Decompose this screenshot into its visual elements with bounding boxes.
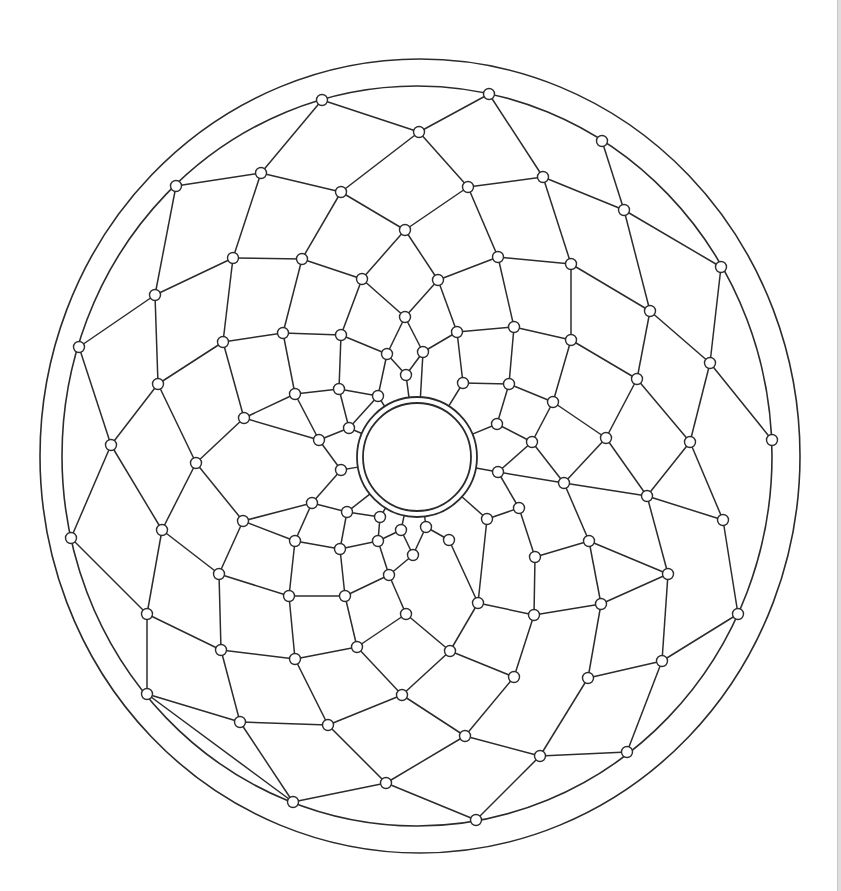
mesh-node	[458, 378, 469, 389]
mesh-node	[657, 656, 668, 667]
mesh-node	[622, 747, 633, 758]
mesh-edge	[155, 295, 158, 384]
mesh-node	[418, 347, 429, 358]
mesh-edge	[476, 756, 540, 820]
mesh-edge	[196, 418, 244, 463]
mesh-node	[153, 379, 164, 390]
mesh-edge	[162, 463, 196, 530]
mesh-edge	[283, 333, 295, 394]
mesh-edge	[322, 100, 419, 132]
mesh-edge	[465, 677, 514, 736]
mesh-edge	[223, 342, 244, 418]
mesh-edge	[710, 267, 721, 363]
mesh-edge	[405, 187, 468, 230]
mesh-node	[566, 259, 577, 270]
mesh-edge	[406, 614, 450, 651]
mesh-edge	[606, 438, 647, 496]
mesh-node	[452, 327, 463, 338]
mesh-edge	[362, 279, 405, 317]
mesh-edge	[295, 503, 312, 541]
mesh-edge	[328, 695, 402, 725]
mesh-node	[297, 254, 308, 265]
mesh-edge	[357, 614, 406, 647]
mesh-node	[529, 610, 540, 621]
mesh-node	[632, 374, 643, 385]
mesh-edge	[219, 521, 243, 574]
mesh-node	[150, 290, 161, 301]
mesh-edge	[295, 394, 319, 440]
mesh-edge	[478, 603, 534, 615]
mesh-node	[357, 274, 368, 285]
mesh-edge	[340, 549, 345, 596]
mesh-edge	[312, 470, 341, 503]
mesh-node	[288, 797, 299, 808]
mesh-node	[767, 435, 778, 446]
mesh-edge	[147, 694, 293, 802]
mesh-edge	[478, 519, 487, 603]
mesh-node	[336, 187, 347, 198]
mesh-node	[214, 569, 225, 580]
mesh-node	[284, 591, 295, 602]
mesh-edge	[457, 327, 514, 332]
mesh-edge	[463, 383, 509, 384]
mesh-node	[408, 550, 419, 561]
center-rings	[357, 397, 477, 517]
mesh-node	[290, 536, 301, 547]
mesh-edge	[647, 496, 723, 520]
mesh-node	[504, 379, 515, 390]
mesh-edge	[386, 736, 465, 783]
mesh-edge	[345, 596, 357, 647]
mesh-edge	[468, 187, 498, 257]
mesh-edge	[571, 264, 650, 311]
mesh-edge	[71, 445, 111, 538]
mesh-node	[375, 512, 386, 523]
scrollbar-edge[interactable]	[837, 0, 841, 891]
mesh-edge	[261, 100, 322, 173]
mesh-edge	[147, 614, 221, 650]
mesh-edge	[243, 503, 312, 521]
mesh-node	[290, 654, 301, 665]
mesh-edge	[553, 402, 606, 438]
mesh-edge	[723, 520, 738, 614]
mesh-edge	[386, 783, 476, 820]
mesh-edge	[221, 650, 295, 659]
mesh-node	[384, 570, 395, 581]
mesh-edge	[509, 327, 514, 384]
mesh-edge	[662, 574, 668, 661]
mesh-edge	[71, 538, 147, 614]
mesh-node	[538, 172, 549, 183]
mesh-node	[493, 467, 504, 478]
mesh-node	[716, 262, 727, 273]
mesh-node	[482, 514, 493, 525]
mesh-edge	[606, 379, 637, 438]
mesh-edge	[240, 722, 293, 802]
mesh-edge	[289, 596, 295, 659]
mesh-node	[401, 609, 412, 620]
mesh-node	[444, 535, 455, 546]
mesh-node	[239, 413, 250, 424]
mesh-node	[106, 440, 117, 451]
mesh-node	[340, 591, 351, 602]
mesh-node	[342, 507, 353, 518]
mesh-edge	[147, 530, 162, 614]
mesh-edge	[564, 483, 589, 541]
mesh-node	[323, 720, 334, 731]
mesh-node	[601, 433, 612, 444]
mesh-edge	[588, 604, 601, 678]
mesh-node	[535, 751, 546, 762]
mesh-edge	[543, 177, 624, 210]
mesh-node	[335, 544, 346, 555]
mesh-edge	[328, 725, 386, 783]
mesh-node	[400, 312, 411, 323]
mesh-edge	[339, 335, 341, 389]
mesh-edge	[647, 496, 668, 574]
mesh-edge	[283, 259, 302, 333]
mesh-edge	[589, 541, 601, 604]
mesh-edge	[534, 557, 535, 615]
mesh-node	[381, 778, 392, 789]
mesh-node	[218, 337, 229, 348]
mesh-edge	[402, 695, 465, 736]
mesh-node	[463, 182, 474, 193]
mesh-edge	[243, 521, 295, 541]
mesh-node	[493, 252, 504, 263]
